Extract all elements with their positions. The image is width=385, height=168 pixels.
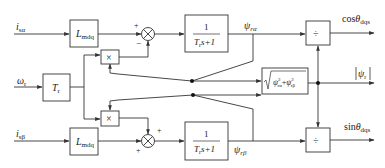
sqrt-expression: ψ2rα+ψ2rβ [273,77,295,88]
input-omega-r-label: ωr [17,75,27,88]
tf-top-denominator: Trs+1 [194,37,215,48]
input-i-s-beta-label: isβ [16,128,26,141]
cos-theta-output-label: cosθdqs [342,13,370,26]
sum-bottom-plus-sign-top: + [157,126,162,135]
div-top-symbol: ÷ [313,28,319,39]
sum-top-minus-sign: − [136,38,141,48]
sin-theta-output-label: sinθdqs [344,121,371,134]
sum-bottom-plus-sign-left: + [136,146,141,155]
input-i-s-alpha-label: isα [16,21,26,34]
junction-dot-alpha [190,79,194,83]
svg-text:ψr: ψr [358,68,366,80]
tf-top-numerator: 1 [204,22,209,32]
junction-dot-beta [191,93,195,97]
multiplier-top-symbol: × [106,52,112,63]
tf-bottom-numerator: 1 [204,129,209,139]
psi-r-magnitude-label: ψr [356,67,370,80]
div-bottom-symbol: ÷ [313,135,319,146]
tf-bottom-denominator: Trs+1 [194,144,215,155]
psi-r-beta-label: ψrβ [234,144,247,157]
multiplier-bottom-symbol: × [106,113,112,124]
flux-observer-block-diagram: isα ωr isβ Lmdq Lmdq Tr × × + − + + 1 Tr… [0,0,385,168]
psi-r-alpha-label: ψrα [244,20,257,33]
sum-top-plus-sign: + [134,21,139,30]
junction-dot-magnitude [316,81,320,85]
